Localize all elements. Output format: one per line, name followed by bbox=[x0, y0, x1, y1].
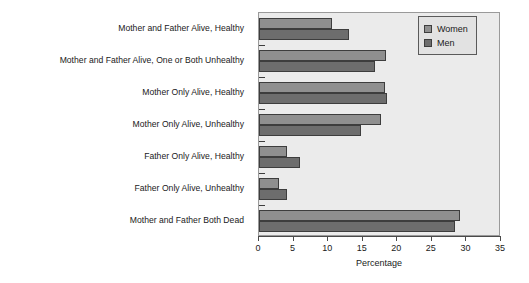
bar-men bbox=[259, 61, 375, 72]
category-tick bbox=[259, 45, 265, 46]
x-tick bbox=[362, 236, 363, 241]
x-tick bbox=[431, 236, 432, 241]
x-tick-label: 20 bbox=[381, 243, 411, 254]
legend-item-women: Women bbox=[424, 22, 468, 35]
bar-men bbox=[259, 157, 300, 168]
category-label: Mother Only Alive, Unhealthy bbox=[0, 119, 252, 129]
category-tick bbox=[259, 173, 265, 174]
x-tick bbox=[293, 236, 294, 241]
x-tick bbox=[465, 236, 466, 241]
legend-label: Women bbox=[437, 24, 468, 34]
bar-women bbox=[259, 146, 287, 157]
category-label: Mother and Father Alive, One or Both Unh… bbox=[0, 55, 252, 65]
x-tick-label: 30 bbox=[450, 243, 480, 254]
bar-women bbox=[259, 114, 381, 125]
bar-men bbox=[259, 125, 361, 136]
x-tick-label: 5 bbox=[278, 243, 308, 254]
x-axis-line bbox=[258, 236, 500, 237]
bar-women bbox=[259, 210, 460, 221]
legend-item-men: Men bbox=[424, 36, 468, 49]
category-label: Father Only Alive, Unhealthy bbox=[0, 183, 252, 193]
bar-women bbox=[259, 178, 279, 189]
x-axis-title: Percentage bbox=[258, 258, 500, 268]
x-tick-label: 25 bbox=[416, 243, 446, 254]
legend-swatch-icon bbox=[424, 25, 432, 33]
category-tick bbox=[259, 109, 265, 110]
category-label: Father Only Alive, Healthy bbox=[0, 151, 252, 161]
bar-women bbox=[259, 50, 386, 61]
x-tick bbox=[327, 236, 328, 241]
bar-men bbox=[259, 189, 287, 200]
x-tick bbox=[500, 236, 501, 241]
x-tick bbox=[396, 236, 397, 241]
x-tick-label: 35 bbox=[485, 243, 515, 254]
bar-chart-figure: Mother and Father Alive, HealthyMother a… bbox=[0, 0, 529, 283]
legend-label: Men bbox=[437, 38, 455, 48]
category-tick bbox=[259, 141, 265, 142]
category-label: Mother and Father Alive, Healthy bbox=[0, 23, 252, 33]
category-tick bbox=[259, 205, 265, 206]
chart-legend: WomenMen bbox=[418, 16, 477, 55]
bar-women bbox=[259, 82, 385, 93]
x-tick-label: 15 bbox=[347, 243, 377, 254]
bar-men bbox=[259, 221, 455, 232]
x-tick-label: 10 bbox=[312, 243, 342, 254]
legend-swatch-icon bbox=[424, 39, 432, 47]
x-tick bbox=[258, 236, 259, 241]
bar-men bbox=[259, 29, 349, 40]
bar-women bbox=[259, 18, 332, 29]
x-tick-label: 0 bbox=[243, 243, 273, 254]
category-label: Mother Only Alive, Healthy bbox=[0, 87, 252, 97]
bar-men bbox=[259, 93, 387, 104]
category-axis-labels: Mother and Father Alive, HealthyMother a… bbox=[0, 12, 252, 236]
category-label: Mother and Father Both Dead bbox=[0, 215, 252, 225]
category-tick bbox=[259, 77, 265, 78]
